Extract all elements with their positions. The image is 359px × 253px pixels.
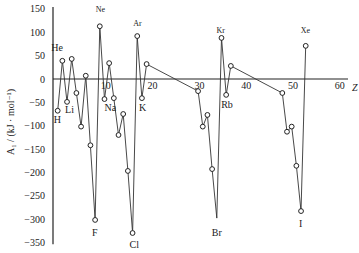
element-label-na: Na xyxy=(104,102,116,113)
data-point-marker xyxy=(107,61,112,66)
data-point-marker xyxy=(144,62,149,67)
element-label-ne: Ne xyxy=(96,5,106,14)
data-point-marker xyxy=(289,124,294,129)
y-tick-label: −300 xyxy=(24,214,45,225)
y-axis-title: A₁ / (kJ · mol⁻¹) xyxy=(5,89,17,155)
data-point-marker xyxy=(303,43,308,48)
data-point-marker xyxy=(69,57,74,62)
y-axis: 150100500−50−100−150−200−250−300−350 xyxy=(24,3,53,247)
data-point-marker xyxy=(88,143,93,148)
data-point-marker xyxy=(140,96,145,101)
element-label-k: K xyxy=(139,102,147,113)
y-tick-label: −50 xyxy=(29,97,45,108)
element-label-he: He xyxy=(51,42,63,53)
y-tick-label: 0 xyxy=(40,74,45,85)
element-label-br: Br xyxy=(212,227,223,238)
data-point-marker xyxy=(210,167,215,172)
data-point-marker xyxy=(121,112,126,117)
element-label-f: F xyxy=(92,227,98,238)
series-line xyxy=(58,26,306,233)
data-point-marker xyxy=(111,96,116,101)
y-tick-label: −200 xyxy=(24,167,45,178)
data-point-marker xyxy=(79,124,84,129)
data-point-marker xyxy=(205,113,210,118)
x-axis-title: Z xyxy=(352,82,358,93)
data-point-marker xyxy=(196,89,201,94)
data-point-marker xyxy=(299,209,304,214)
element-label-cl: Cl xyxy=(130,239,140,250)
x-tick-label: 50 xyxy=(288,80,298,91)
x-tick-label: 20 xyxy=(148,80,158,91)
data-series xyxy=(55,24,308,236)
data-point-marker xyxy=(294,163,299,168)
element-label-rb: Rb xyxy=(221,99,233,110)
element-labels: HHeLiFNeNaClArKBrKrRbIXe xyxy=(51,5,310,250)
data-point-marker xyxy=(97,24,102,29)
data-point-marker xyxy=(200,124,205,129)
data-point-marker xyxy=(83,73,88,78)
element-label-h: H xyxy=(54,114,61,125)
data-point-marker xyxy=(228,64,233,69)
x-tick-label: 40 xyxy=(241,80,251,91)
data-point-marker xyxy=(60,58,65,63)
element-label-ar: Ar xyxy=(133,19,142,28)
x-tick-label: 60 xyxy=(335,80,345,91)
y-tick-label: −250 xyxy=(24,190,45,201)
data-point-marker xyxy=(55,108,60,113)
y-tick-label: 100 xyxy=(30,27,45,38)
electron-affinity-chart: 150100500−50−100−150−200−250−300−350 102… xyxy=(0,0,359,253)
data-point-marker xyxy=(285,129,290,134)
data-point-marker xyxy=(102,97,107,102)
y-tick-label: 150 xyxy=(30,3,45,14)
data-point-marker xyxy=(224,92,229,97)
element-label-i: I xyxy=(299,218,302,229)
y-tick-label: −150 xyxy=(24,144,45,155)
data-point-marker xyxy=(93,218,98,223)
data-point-marker xyxy=(125,169,130,174)
x-axis: 102030405060 xyxy=(53,79,348,91)
element-label-kr: Kr xyxy=(216,26,225,35)
y-tick-label: 50 xyxy=(35,50,45,61)
y-tick-label: −350 xyxy=(24,237,45,248)
data-point-marker xyxy=(135,34,140,39)
data-point-marker xyxy=(74,91,79,96)
data-point-marker xyxy=(116,133,121,138)
element-label-xe: Xe xyxy=(301,26,311,35)
y-tick-label: −100 xyxy=(24,120,45,131)
data-point-marker xyxy=(219,36,224,41)
data-point-marker xyxy=(280,91,285,96)
element-label-li: Li xyxy=(65,104,74,115)
data-point-marker xyxy=(130,231,135,236)
